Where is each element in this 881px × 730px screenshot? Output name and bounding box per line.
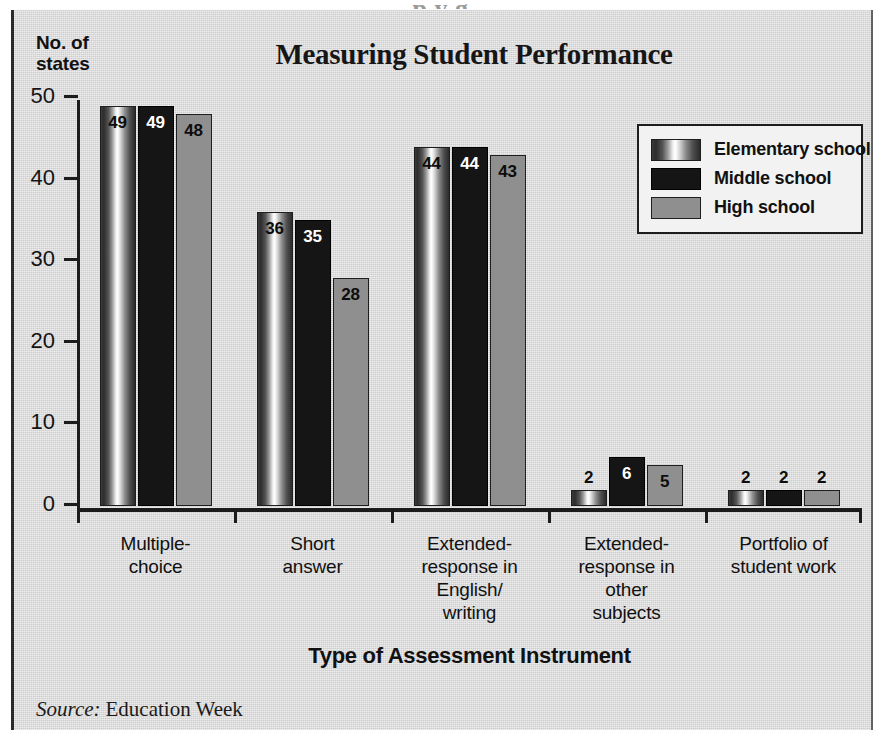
source-note: Source:Education Week	[36, 697, 243, 722]
bar: 49	[138, 106, 174, 506]
x-axis-title: Type of Assessment Instrument	[77, 643, 862, 669]
bar-value-label: 2	[729, 468, 763, 488]
y-axis-tick-label: 20	[31, 328, 55, 354]
bar: 2	[728, 490, 764, 506]
y-axis-tick: 0	[64, 503, 78, 506]
figure-panel: No. ofstates Measuring Student Performan…	[11, 10, 873, 730]
bar-group: 494948	[100, 98, 212, 506]
x-axis-tick	[705, 510, 708, 523]
category-label-line: Multiple-	[72, 532, 240, 555]
y-axis-label: No. ofstates	[36, 32, 146, 74]
x-axis-tick	[548, 510, 551, 523]
bar: 36	[257, 212, 293, 506]
category-label: Multiple-choice	[72, 532, 240, 578]
chart-legend: Elementary schoolMiddle schoolHigh schoo…	[637, 124, 863, 234]
x-axis-spine	[77, 508, 862, 512]
y-axis-tick: 10	[64, 421, 78, 424]
x-axis-tick	[234, 510, 237, 523]
bar-value-label: 49	[101, 113, 135, 133]
category-label: Extended-response inothersubjects	[543, 532, 711, 624]
bar-value-label: 6	[610, 464, 644, 484]
category-label-line: Short	[229, 532, 397, 555]
category-label: Extended-response inEnglish/writing	[386, 532, 554, 624]
category-label-line: subjects	[543, 601, 711, 624]
legend-label: High school	[714, 197, 815, 218]
cropped-headline-above: p y g	[0, 0, 881, 9]
x-axis-tick	[859, 510, 862, 523]
legend-label: Elementary school	[714, 139, 871, 160]
y-axis-tick-label: 40	[31, 165, 55, 191]
bar: 49	[100, 106, 136, 506]
category-label-line: response in	[386, 555, 554, 578]
bar: 48	[176, 114, 212, 506]
bar: 2	[766, 490, 802, 506]
bar: 2	[571, 490, 607, 506]
bar: 44	[452, 147, 488, 506]
y-axis-spine	[77, 100, 80, 511]
bar-value-label: 2	[572, 468, 606, 488]
y-axis-tick: 20	[64, 340, 78, 343]
category-label-line: student work	[700, 555, 868, 578]
category-label-line: choice	[72, 555, 240, 578]
source-publication: Education Week	[106, 697, 243, 721]
y-axis-tick: 30	[64, 258, 78, 261]
bar: 44	[414, 147, 450, 506]
category-label-line: English/	[386, 578, 554, 601]
y-axis-tick: 50	[64, 95, 78, 98]
x-axis-tick	[391, 510, 394, 523]
bar: 6	[609, 457, 645, 506]
legend-label: Middle school	[714, 168, 831, 189]
legend-swatch	[651, 168, 701, 190]
category-label: Shortanswer	[229, 532, 397, 578]
y-axis-tick-label: 30	[31, 246, 55, 272]
bar: 28	[333, 278, 369, 506]
legend-swatch	[651, 197, 701, 219]
bar-value-label: 5	[648, 472, 682, 492]
category-label: Portfolio ofstudent work	[700, 532, 868, 578]
y-axis-tick-label: 10	[31, 409, 55, 435]
y-axis-label-line: states	[36, 53, 146, 74]
scanned-page: p y g No. ofstates Measuring Student Per…	[0, 0, 881, 730]
y-axis-label-line: No. of	[36, 32, 146, 53]
category-label-line: Portfolio of	[700, 532, 868, 555]
bar-group: 363528	[257, 98, 369, 506]
bar: 43	[490, 155, 526, 506]
y-axis-tick-label: 50	[31, 83, 55, 109]
bar: 5	[647, 465, 683, 506]
bar-value-label: 35	[296, 227, 330, 247]
bar-value-label: 44	[453, 154, 487, 174]
category-label-line: other	[543, 578, 711, 601]
bar-value-label: 36	[258, 219, 292, 239]
category-label-line: writing	[386, 601, 554, 624]
bar: 35	[295, 220, 331, 506]
source-label: Source:	[36, 697, 101, 721]
bar-value-label: 44	[415, 154, 449, 174]
bar-value-label: 2	[805, 468, 839, 488]
chart-title: Measuring Student Performance	[164, 38, 784, 71]
y-axis-tick: 40	[64, 177, 78, 180]
bar-value-label: 49	[139, 113, 173, 133]
bar-group: 444443	[414, 98, 526, 506]
bar-value-label: 28	[334, 285, 368, 305]
legend-item: Elementary school	[651, 135, 851, 164]
category-label-line: Extended-	[386, 532, 554, 555]
bar-value-label: 48	[177, 121, 211, 141]
category-label-line: answer	[229, 555, 397, 578]
category-label-line: response in	[543, 555, 711, 578]
bar-value-label: 2	[767, 468, 801, 488]
category-label-line: Extended-	[543, 532, 711, 555]
legend-item: High school	[651, 193, 851, 222]
y-axis-tick-label: 0	[43, 491, 55, 517]
legend-item: Middle school	[651, 164, 851, 193]
bar: 2	[804, 490, 840, 506]
x-axis-tick	[77, 510, 80, 523]
legend-swatch	[651, 139, 701, 161]
bar-value-label: 43	[491, 162, 525, 182]
